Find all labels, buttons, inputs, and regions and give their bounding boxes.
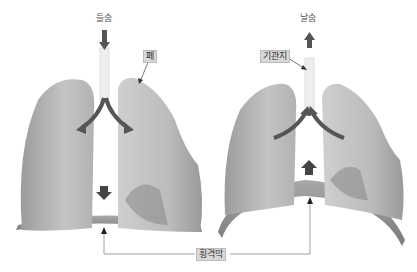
air-in-arrow: [99, 30, 110, 50]
diaphragm-up-arrow: [301, 160, 317, 175]
bronchus-callout: 기관지: [260, 50, 290, 63]
diaphragm-callout: 횡격막: [196, 248, 226, 261]
left-lung: [225, 84, 297, 215]
breathing-diagram: [0, 0, 417, 272]
inhale-panel: [16, 30, 202, 232]
trachea: [305, 58, 314, 110]
diaphragm-down-arrow: [96, 186, 112, 200]
trachea: [100, 48, 109, 100]
exhale-label: 날숨: [300, 13, 316, 24]
left-lung: [21, 79, 95, 231]
inhale-label: 들숨: [96, 13, 112, 24]
lung-callout: 폐: [143, 50, 157, 63]
air-out-arrow: [304, 32, 315, 48]
exhale-panel: [218, 32, 405, 246]
